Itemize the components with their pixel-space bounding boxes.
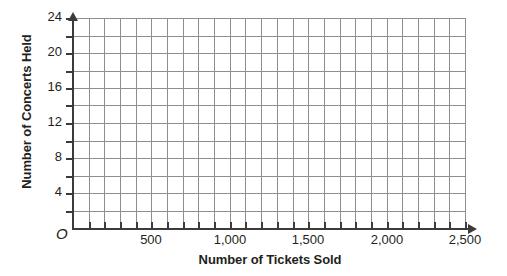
gridline-horizontal	[73, 36, 465, 37]
y-tick-label: 8	[36, 149, 62, 164]
x-tick-mark	[449, 222, 451, 230]
y-tick-mark	[66, 105, 74, 107]
x-tick-mark	[371, 222, 373, 230]
x-tick-label: 2,000	[357, 232, 417, 247]
y-tick-mark	[66, 141, 74, 143]
y-tick-label: 24	[36, 9, 62, 24]
x-tick-mark	[418, 222, 420, 230]
x-tick-mark	[434, 222, 436, 230]
x-tick-mark	[104, 222, 106, 230]
gridline-horizontal	[73, 88, 465, 89]
y-tick-mark	[66, 176, 74, 178]
gridline-horizontal	[73, 211, 465, 212]
plot-area	[73, 18, 465, 228]
y-tick-mark	[66, 158, 74, 160]
x-tick-mark	[151, 222, 153, 230]
y-tick-label: 12	[36, 114, 62, 129]
x-tick-label: 500	[121, 232, 181, 247]
gridline-horizontal	[73, 18, 465, 19]
y-tick-mark	[66, 123, 74, 125]
x-tick-mark	[230, 222, 232, 230]
x-tick-mark	[183, 222, 185, 230]
y-axis-title: Number of Concerts Held	[19, 2, 34, 222]
y-tick-mark	[66, 36, 74, 38]
x-tick-mark	[387, 222, 389, 230]
x-axis-line	[72, 228, 470, 230]
y-tick-mark	[66, 53, 74, 55]
y-tick-mark	[66, 71, 74, 73]
y-tick-mark	[66, 193, 74, 195]
x-tick-mark	[120, 222, 122, 230]
gridline-horizontal	[73, 158, 465, 159]
x-tick-mark	[198, 222, 200, 230]
x-tick-mark	[89, 222, 91, 230]
origin-label: O	[56, 226, 68, 241]
y-tick-mark	[66, 18, 74, 20]
x-tick-mark	[245, 222, 247, 230]
x-tick-mark	[261, 222, 263, 230]
x-tick-mark	[340, 222, 342, 230]
y-tick-mark	[66, 211, 74, 213]
x-tick-mark	[402, 222, 404, 230]
x-tick-mark	[136, 222, 138, 230]
x-tick-mark	[308, 222, 310, 230]
x-tick-mark	[277, 222, 279, 230]
x-tick-mark	[293, 222, 295, 230]
x-tick-label: 2,500	[435, 232, 495, 247]
y-tick-label: 20	[36, 44, 62, 59]
y-tick-mark	[66, 88, 74, 90]
x-tick-mark	[465, 222, 467, 230]
x-tick-mark	[355, 222, 357, 230]
x-axis-title: Number of Tickets Sold	[73, 252, 467, 267]
gridline-horizontal	[73, 193, 465, 194]
x-tick-mark	[167, 222, 169, 230]
chart-container: Number of Concerts Held 5001,0001,5002,0…	[0, 0, 507, 276]
x-tick-label: 1,000	[200, 232, 260, 247]
x-tick-mark	[214, 222, 216, 230]
y-tick-label: 16	[36, 79, 62, 94]
gridline-vertical	[465, 18, 466, 228]
x-tick-label: 1,500	[278, 232, 338, 247]
gridline-horizontal	[73, 71, 465, 72]
gridline-horizontal	[73, 123, 465, 124]
x-tick-mark	[324, 222, 326, 230]
gridline-horizontal	[73, 53, 465, 54]
gridline-horizontal	[73, 176, 465, 177]
gridline-horizontal	[73, 105, 465, 106]
gridline-horizontal	[73, 141, 465, 142]
y-tick-label: 4	[36, 184, 62, 199]
